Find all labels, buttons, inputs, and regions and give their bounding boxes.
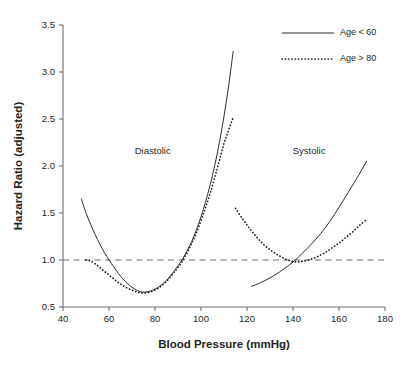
region-label: Systolic: [293, 145, 326, 156]
y-tick-label: 3.5: [42, 19, 55, 30]
y-tick-label: 2.0: [42, 160, 55, 171]
x-tick-label: 140: [285, 313, 301, 324]
region-label: Diastolic: [135, 145, 171, 156]
chart-canvas: 0.51.01.52.02.53.03.5 406080100120140160…: [0, 0, 408, 370]
hazard-ratio-chart: 0.51.01.52.02.53.03.5 406080100120140160…: [0, 0, 408, 370]
x-tick-label: 40: [58, 313, 69, 324]
y-tick-label: 2.5: [42, 113, 55, 124]
x-tick-label: 80: [150, 313, 161, 324]
legend-label: Age > 80: [340, 53, 376, 63]
legend-label: Age < 60: [340, 27, 376, 37]
y-tick-label: 3.0: [42, 66, 55, 77]
y-tick-label: 1.5: [42, 207, 55, 218]
x-axis-title: Blood Pressure (mmHg): [158, 338, 290, 350]
y-tick-label: 0.5: [42, 301, 55, 312]
x-tick-label: 100: [193, 313, 209, 324]
y-axis-title: Hazard Ratio (adjusted): [12, 102, 24, 231]
x-tick-label: 120: [239, 313, 255, 324]
x-tick-label: 60: [104, 313, 115, 324]
x-tick-label: 160: [331, 313, 347, 324]
x-tick-label: 180: [377, 313, 393, 324]
y-tick-label: 1.0: [42, 254, 55, 265]
